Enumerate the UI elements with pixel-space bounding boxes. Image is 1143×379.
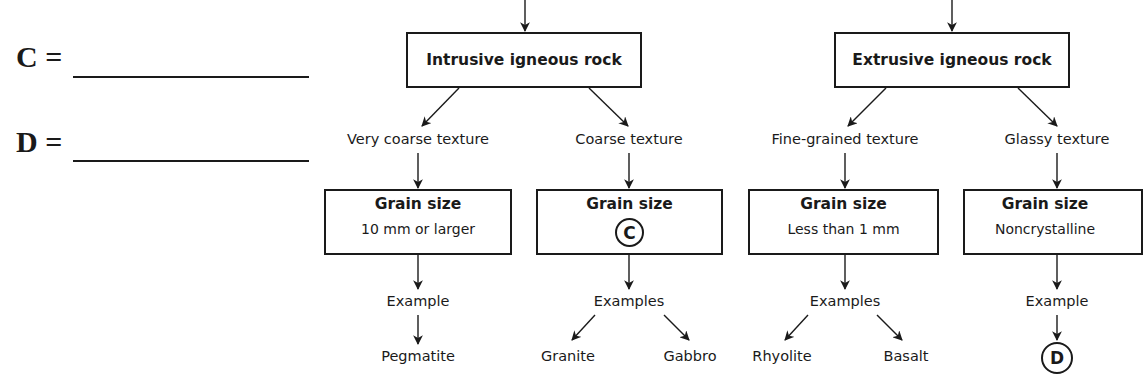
grain-size-value: Noncrystalline	[965, 221, 1125, 237]
rock-example: Pegmatite	[381, 348, 455, 364]
extrusive-rock-title: Extrusive igneous rock	[852, 51, 1051, 69]
blank-marker-d: D	[1041, 342, 1073, 374]
rock-example: Gabbro	[663, 348, 716, 364]
examples-label: Examples	[594, 293, 664, 309]
grain-size-title: Grain size	[326, 195, 510, 213]
texture-label: Glassy texture	[1005, 131, 1110, 147]
intrusive-rock-title: Intrusive igneous rock	[426, 51, 622, 69]
grain-size-title: Grain size	[538, 195, 721, 213]
texture-label: Coarse texture	[575, 131, 682, 147]
examples-label: Example	[387, 293, 450, 309]
grain-size-title: Grain size	[965, 195, 1125, 213]
examples-label: Example	[1026, 293, 1089, 309]
rock-example: Rhyolite	[752, 348, 811, 364]
rock-example: Basalt	[884, 348, 929, 364]
grain-size-value: 10 mm or larger	[326, 221, 510, 237]
arrow-extrusive-fine	[848, 88, 886, 126]
rock-example: Granite	[541, 348, 595, 364]
texture-label: Very coarse texture	[347, 131, 489, 147]
texture-label: Fine-grained texture	[771, 131, 918, 147]
arrow-extrusive-glassy	[1018, 88, 1057, 126]
blank-marker-c: C	[615, 218, 644, 247]
examples-label: Examples	[810, 293, 880, 309]
grain-size-box: Grain size Less than 1 mm	[748, 189, 939, 255]
grain-size-box: Grain size 10 mm or larger	[324, 189, 512, 255]
arrow-intrusive-very-coarse	[422, 88, 459, 126]
grain-size-value: Less than 1 mm	[750, 221, 937, 237]
grain-size-box: Grain size Noncrystalline	[963, 189, 1143, 255]
grain-size-title: Grain size	[750, 195, 937, 213]
intrusive-rock-box: Intrusive igneous rock	[406, 32, 642, 88]
arrow-intrusive-coarse	[589, 88, 628, 126]
extrusive-rock-box: Extrusive igneous rock	[834, 32, 1070, 88]
